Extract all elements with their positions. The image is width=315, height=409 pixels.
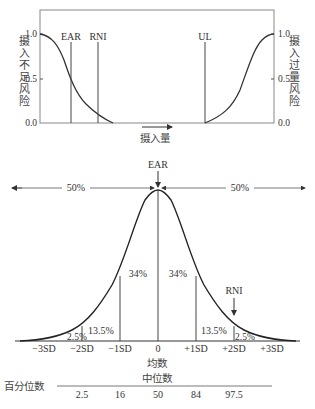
region-left-inner: 34%	[129, 268, 147, 279]
top-chart: 1.0 0.5 0.0 1.0 0.5 0.0 EAR RNI UL	[25, 10, 290, 128]
percentile-16: 16	[115, 389, 125, 400]
mean-label: 均数	[147, 355, 167, 370]
x-tick-minus1sd: −1SD	[108, 343, 131, 354]
region-left-mid: 13.5%	[88, 325, 114, 336]
ear-marker-label: EAR	[61, 31, 81, 42]
deficiency-risk-axis-label: 摄入不足风险	[15, 35, 31, 107]
excess-risk-axis-label: 摄入过量风险	[285, 35, 301, 107]
percentile-2-5: 2.5	[76, 389, 89, 400]
percentile-label: 百分位数	[4, 378, 44, 393]
region-left-outer: 2.5%	[67, 332, 87, 342]
region-right-inner: 34%	[169, 268, 187, 279]
excess-risk-curve	[205, 34, 274, 123]
diagram-canvas: 1.0 0.5 0.0 1.0 0.5 0.0 EAR RNI UL EAR	[0, 0, 315, 409]
right-tick-0: 0.0	[278, 118, 290, 128]
top-chart-frame	[40, 10, 274, 123]
x-tick-minus2sd: −2SD	[70, 343, 93, 354]
region-right-mid: 13.5%	[201, 325, 227, 336]
percentile-50: 50	[153, 389, 163, 400]
percentile-84: 84	[191, 389, 201, 400]
intake-axis-label: 摄入量	[140, 130, 170, 145]
x-tick-plus1sd: +1SD	[184, 343, 207, 354]
left-span-label: 50%	[67, 182, 85, 193]
median-label: 中位数	[142, 370, 172, 385]
region-right-outer: 2.5%	[235, 332, 255, 342]
x-tick-plus3sd: +3SD	[260, 343, 283, 354]
deficiency-risk-curve	[40, 34, 113, 123]
x-tick-minus3sd: −3SD	[32, 343, 55, 354]
left-tick-0: 0.0	[25, 118, 37, 128]
ul-marker-label: UL	[198, 31, 211, 42]
x-tick-plus2sd: +2SD	[222, 343, 245, 354]
percentile-97-5: 97.5	[225, 389, 243, 400]
right-span-label: 50%	[231, 182, 249, 193]
rni-marker-label: RNI	[89, 31, 106, 42]
ear-label: EAR	[148, 159, 168, 170]
rni-label: RNI	[225, 285, 242, 296]
x-tick-0: 0	[156, 343, 161, 354]
